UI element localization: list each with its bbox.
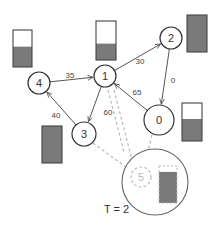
edge-label-4-1: 35	[66, 71, 75, 80]
diagram-canvas: T = 2 5 35300656040 01234 T = 2	[0, 0, 218, 225]
node-label-0: 0	[156, 114, 162, 126]
buffer-fill-3	[42, 126, 62, 163]
dashed-link	[108, 90, 124, 152]
edge-label-2-0: 0	[171, 76, 176, 85]
node-label-3: 3	[81, 128, 87, 140]
edge-label-0-1: 65	[133, 88, 142, 97]
network-graph: 5 35300656040 01234 T = 2	[0, 0, 218, 225]
dashed-link	[93, 143, 130, 170]
edge-label-3-4: 40	[52, 111, 61, 120]
node-label-2: 2	[168, 32, 174, 44]
buffer-fill-1	[96, 44, 116, 60]
edge-label-1-3: 60	[104, 108, 113, 117]
edge-2-0	[161, 49, 169, 104]
buffer-fill-4	[13, 47, 32, 67]
edge-label-1-2: 30	[136, 57, 145, 66]
buffer-fill-0	[182, 119, 202, 141]
time-label: T = 2	[104, 203, 129, 215]
zoom-inset: 5	[122, 149, 188, 215]
ghost-buffer-fill	[159, 172, 177, 203]
edge-3-4	[47, 92, 76, 125]
ghost-node-label: 5	[138, 171, 144, 183]
node-label-4: 4	[36, 77, 42, 89]
edge-0-1	[114, 84, 147, 111]
buffer-fill-2	[187, 15, 207, 52]
node-label-1: 1	[102, 70, 108, 82]
edge-1-3	[88, 86, 101, 121]
